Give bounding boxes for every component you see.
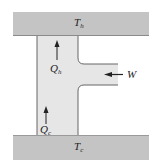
heat-out-label: Qh [50, 63, 61, 76]
cold-reservoir-label: Tc [74, 141, 83, 154]
hot-reservoir-label: Th [74, 17, 84, 30]
work-label: W [127, 69, 136, 80]
heat-in-label: Qc [40, 124, 51, 137]
